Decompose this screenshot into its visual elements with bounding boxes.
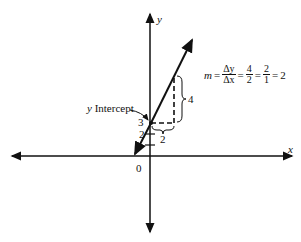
tick-label: 2 [139,129,145,140]
origin-label: 0 [136,163,142,174]
fraction-4-2: 4 2 [246,64,253,85]
slope-formula: m = Δy Δx = 4 2 = 2 1 = 2 [204,64,286,85]
rise-brace [177,76,186,122]
y-intercept-label: y Intercept [87,103,134,114]
x-axis-label: x [288,144,293,155]
intercept-value: 3 [138,117,144,128]
coordinate-plane [0,0,301,242]
run-label: 2 [160,134,166,145]
rise-label: 4 [188,94,194,105]
fraction-2-1: 2 1 [263,64,270,85]
delta-fraction: Δy Δx [222,64,235,85]
line-y-2x-3 [151,40,192,123]
y-axis-label: y [157,14,162,25]
